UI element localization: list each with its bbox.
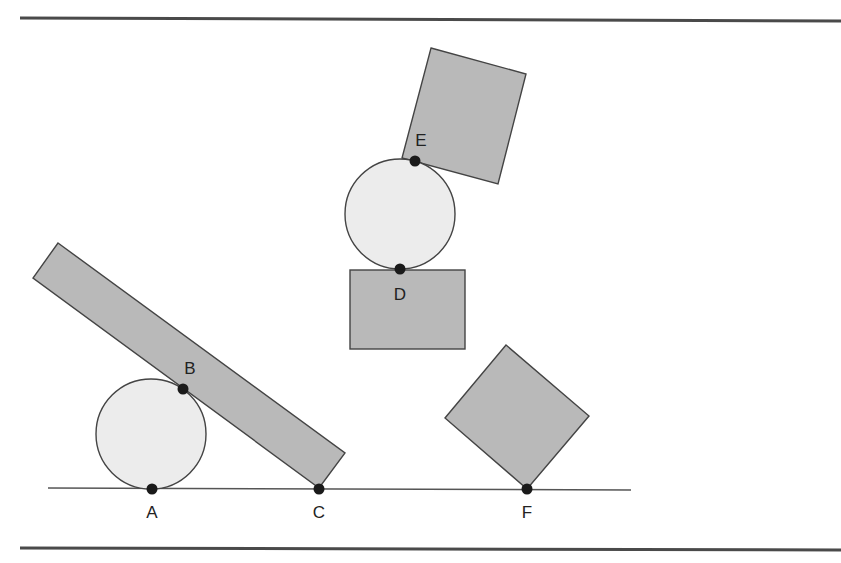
- contact-point-a: [147, 484, 158, 495]
- contact-point-e: [410, 156, 421, 167]
- point-label-a: A: [146, 503, 158, 522]
- point-label-f: F: [522, 503, 532, 522]
- ground-line: [48, 488, 631, 490]
- middle-ball: [345, 159, 455, 269]
- contact-point-f: [522, 484, 533, 495]
- point-label-c: C: [313, 503, 325, 522]
- lower-block: [350, 270, 465, 349]
- tilted-square-on-ground: [445, 345, 589, 489]
- point-label-e: E: [415, 131, 426, 150]
- lower-ball: [96, 379, 206, 489]
- contact-point-d: [395, 264, 406, 275]
- point-label-d: D: [394, 285, 406, 304]
- contact-point-c: [314, 484, 325, 495]
- top-rule: [20, 18, 841, 21]
- contact-points-diagram: ABCDEF: [0, 0, 841, 563]
- point-label-b: B: [184, 359, 195, 378]
- bottom-rule: [20, 548, 841, 550]
- contact-points: ABCDEF: [146, 131, 532, 522]
- contact-point-b: [178, 384, 189, 395]
